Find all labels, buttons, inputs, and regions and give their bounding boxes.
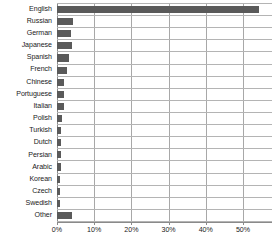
bar-row — [57, 65, 272, 77]
category-label: Spanish — [0, 52, 55, 64]
bar-row — [57, 89, 272, 101]
category-label: Arabic — [0, 161, 55, 173]
category-label: Portuguese — [0, 88, 55, 100]
bar-row — [57, 210, 272, 222]
bar-row — [57, 174, 272, 186]
bar-row — [57, 40, 272, 52]
bar-row — [57, 125, 272, 137]
x-tick-mark — [57, 222, 58, 225]
category-label: Italian — [0, 100, 55, 112]
bar-row — [57, 149, 272, 161]
bar — [57, 176, 60, 183]
x-tick-label: 30% — [161, 227, 175, 234]
bar — [57, 163, 61, 170]
bar — [57, 91, 64, 98]
x-tick-label: 50% — [236, 227, 250, 234]
category-label: French — [0, 64, 55, 76]
bar — [57, 18, 73, 25]
bar-row — [57, 3, 272, 16]
category-label: Korean — [0, 173, 55, 185]
category-label: Other — [0, 210, 55, 222]
bar-row — [57, 101, 272, 113]
category-label: Swedish — [0, 198, 55, 210]
bar — [57, 42, 72, 49]
bar — [57, 67, 67, 74]
x-tick-mark — [206, 222, 207, 225]
x-tick-mark — [169, 222, 170, 225]
bar-row — [57, 77, 272, 89]
x-tick-mark — [131, 222, 132, 225]
category-label: Persian — [0, 149, 55, 161]
category-label: German — [0, 27, 55, 39]
category-label: English — [0, 3, 55, 15]
category-label: Turkish — [0, 125, 55, 137]
bar — [57, 151, 61, 158]
bar — [57, 127, 61, 134]
bar — [57, 54, 69, 61]
bar — [57, 6, 259, 13]
bar-chart: EnglishRussianGermanJapaneseSpanishFrenc… — [0, 0, 275, 241]
bar — [57, 115, 62, 122]
bar-row — [57, 161, 272, 173]
bar-row — [57, 198, 272, 210]
bar — [57, 79, 64, 86]
bar-row — [57, 52, 272, 64]
category-axis-labels: EnglishRussianGermanJapaneseSpanishFrenc… — [0, 3, 55, 222]
category-label: Japanese — [0, 40, 55, 52]
category-label: Dutch — [0, 137, 55, 149]
x-axis-ticks: 0%10%20%30%40%50% — [57, 222, 272, 241]
x-tick-label: 20% — [124, 227, 138, 234]
category-label: Chinese — [0, 76, 55, 88]
bar — [57, 188, 60, 195]
bar-row — [57, 28, 272, 40]
x-tick-mark — [94, 222, 95, 225]
bar-rows — [57, 3, 272, 222]
x-tick-label: 40% — [199, 227, 213, 234]
bar — [57, 200, 60, 207]
bar-row — [57, 16, 272, 28]
bar-row — [57, 113, 272, 125]
x-tick-label: 10% — [87, 227, 101, 234]
bar-row — [57, 186, 272, 198]
category-label: Polish — [0, 113, 55, 125]
bar — [57, 30, 71, 37]
bar — [57, 139, 61, 146]
category-label: Russian — [0, 15, 55, 27]
x-tick-label: 0% — [52, 227, 62, 234]
plot-area — [57, 3, 272, 222]
bar — [57, 212, 72, 219]
category-label: Czech — [0, 186, 55, 198]
x-tick-mark — [243, 222, 244, 225]
bar-row — [57, 137, 272, 149]
bar — [57, 103, 64, 110]
